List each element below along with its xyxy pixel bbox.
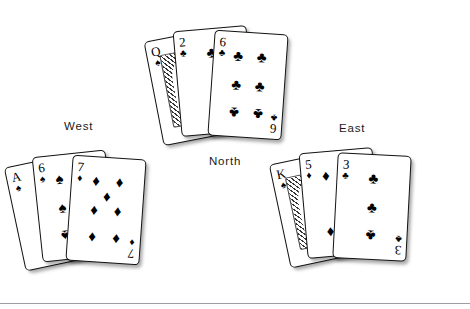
card-pip: ♣ [256,49,267,65]
card-pip-field: ♣♣♣♣♣♣ [224,44,271,127]
seat-label-north: North [209,155,241,167]
card-suit-icon: ♠ [15,183,22,193]
card-corner-index-top-left: 6♠ [38,161,47,184]
card-pip: ♣ [367,199,378,214]
card-rank: 7 [128,247,135,260]
bridge-hand-diagram: West North East A♠A♠♠6♠6♠♠♠♠♠♠♠7♦7♦♦♦♦♦♦… [0,0,470,309]
card-rank: 6 [270,122,277,135]
card-suit-icon: ♦ [306,170,312,180]
card-suit-icon: ♣ [180,48,187,58]
card-suit-icon: ♦ [129,237,135,247]
card-pip: ♣ [368,170,379,185]
card-suit-icon: ♣ [395,234,402,244]
card-pip: ♦ [88,230,97,245]
card-pip: ♣ [365,228,376,243]
card-pip: ♦ [103,188,112,203]
card-rank: 3 [395,243,402,256]
card-corner-index-top-left: 3♣ [342,157,350,180]
card-pip: ♣ [254,78,265,94]
card-corner-index-top-left: 7♦ [76,160,84,183]
card-pip: ♣ [231,76,242,92]
card-corner-index-bottom-right: 3♣ [394,234,402,257]
card-corner-index-bottom-right: 6♣ [270,112,278,135]
bottom-divider [0,303,470,304]
card-pip: ♠ [58,199,67,215]
seat-label-east: East [339,122,365,134]
card-corner-index-top-left: 6♣ [218,35,226,58]
seat-label-west: West [64,120,93,132]
card-pip: ♠ [55,171,64,187]
playing-card[interactable]: 3♣3♣♣♣♣ [332,152,411,262]
card-corner-index-top-left: 2♣ [178,35,186,58]
card-corner-index-top-left: 5♦ [304,157,312,180]
card-pip: ♦ [92,173,101,188]
card-pip: ♣ [252,107,263,123]
card-suit-icon: ♣ [342,170,349,180]
playing-card[interactable]: 7♦7♦♦♦♦♦♦♦♦ [65,155,146,266]
card-suit-icon: ♣ [218,48,225,58]
card-pip: ♦ [111,232,120,247]
card-pip: ♦ [321,168,330,184]
card-pip-field: ♦♦♦♦♦♦♦ [82,169,129,252]
card-corner-index-bottom-right: 7♦ [128,237,136,260]
playing-card[interactable]: 6♣6♣♣♣♣♣♣♣ [207,30,288,141]
card-pip-field: ♣♣♣ [349,166,395,248]
card-pip: ♦ [90,201,99,216]
card-pip: ♦ [113,203,122,218]
card-suit-icon: ♣ [270,112,277,122]
card-pip: ♣ [229,105,240,121]
card-suit-icon: ♠ [39,174,45,184]
card-corner-index-top-left: A♠ [10,170,24,194]
card-pip: ♣ [233,48,244,64]
card-pip: ♦ [115,174,124,189]
card-suit-icon: ♦ [77,173,83,183]
